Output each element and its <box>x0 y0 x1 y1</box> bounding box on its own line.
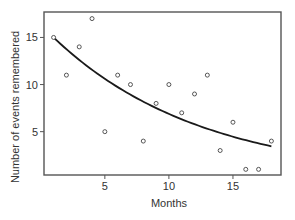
plot-frame <box>44 12 281 175</box>
data-point <box>231 120 235 124</box>
data-point <box>180 111 184 115</box>
data-point <box>269 139 273 143</box>
data-point <box>154 101 158 105</box>
data-point <box>141 139 145 143</box>
x-tick-label: 10 <box>163 180 175 192</box>
data-point <box>52 35 56 39</box>
plot-area <box>44 12 281 175</box>
scatter-chart: 51015 51015 Months Number of events reme… <box>0 0 295 220</box>
data-point <box>205 73 209 77</box>
data-point <box>77 45 81 49</box>
data-point <box>193 92 197 96</box>
x-axis-ticks: 51015 <box>102 175 239 192</box>
fitted-curve-path <box>54 37 272 146</box>
y-axis-ticks: 51015 <box>26 31 44 137</box>
y-axis-label: Number of events remembered <box>9 31 21 183</box>
data-point <box>116 73 120 77</box>
data-point <box>103 130 107 134</box>
data-point <box>257 167 261 171</box>
x-tick-label: 5 <box>102 180 108 192</box>
x-tick-label: 15 <box>227 180 239 192</box>
y-tick-label: 5 <box>32 126 38 138</box>
data-point <box>244 167 248 171</box>
x-axis-label: Months <box>151 197 188 209</box>
y-tick-label: 10 <box>26 79 38 91</box>
data-point <box>90 17 94 21</box>
y-tick-label: 15 <box>26 31 38 43</box>
data-point <box>128 83 132 87</box>
data-point <box>167 83 171 87</box>
data-points <box>52 17 274 172</box>
fitted-curve <box>54 37 272 146</box>
data-point <box>64 73 68 77</box>
data-point <box>218 149 222 153</box>
